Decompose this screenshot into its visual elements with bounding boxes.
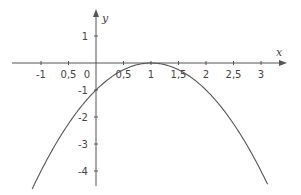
y-tick-label: 1 bbox=[82, 31, 88, 42]
x-axis-arrow-icon bbox=[279, 60, 287, 66]
y-tick-label: -4 bbox=[78, 166, 88, 177]
y-tick-label: -2 bbox=[78, 112, 88, 123]
x-tick-label: 0,5 bbox=[61, 69, 77, 80]
ticks bbox=[41, 36, 261, 171]
x-tick-label: 2 bbox=[203, 69, 209, 80]
curve bbox=[32, 63, 267, 189]
chart: xy-10,50,511,522,5301-1-2-3-4 bbox=[0, 0, 301, 195]
parabola-curve bbox=[32, 63, 267, 189]
x-tick-label: 1 bbox=[148, 69, 154, 80]
y-axis-arrow-icon bbox=[93, 9, 99, 17]
x-tick-label: 0,5 bbox=[116, 69, 132, 80]
x-axis-label: x bbox=[276, 46, 283, 59]
y-tick-label: -1 bbox=[78, 85, 88, 96]
axes bbox=[12, 9, 287, 186]
x-tick-label: 2,5 bbox=[226, 69, 242, 80]
labels: xy-10,50,511,522,5301-1-2-3-4 bbox=[36, 12, 283, 177]
y-tick-label: -3 bbox=[78, 139, 88, 150]
x-tick-label: 1,5 bbox=[171, 69, 187, 80]
origin-label: 0 bbox=[84, 69, 90, 80]
x-tick-label: -1 bbox=[36, 69, 46, 80]
x-tick-label: 3 bbox=[258, 69, 264, 80]
y-axis-label: y bbox=[101, 12, 109, 25]
